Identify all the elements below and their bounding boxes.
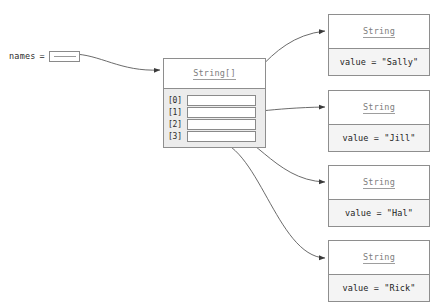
array-slot-list: [0] [1] [2] [3] <box>164 88 265 147</box>
string-object-header: String <box>329 91 429 124</box>
string-object-body: value = "Rick" <box>329 274 429 301</box>
string-object-1: String value = "Jill" <box>328 90 430 152</box>
arrow-slot-3-to-string-3 <box>212 140 325 258</box>
array-slot-index-label: [1] <box>168 108 187 117</box>
string-object-header: String <box>329 15 429 48</box>
string-value-field: value = "Hal" <box>345 208 413 218</box>
variable-name-label: names <box>9 51 36 61</box>
array-slot-index-label: [2] <box>168 120 187 129</box>
array-slot-1: [1] <box>164 106 265 118</box>
string-object-0: String value = "Sally" <box>328 14 430 76</box>
array-slot-2: [2] <box>164 118 265 130</box>
array-slot-index-label: [3] <box>168 132 187 141</box>
array-slot-0: [0] <box>164 94 265 106</box>
string-value-field: value = "Sally" <box>340 57 418 67</box>
array-object: String[] [0] [1] [2] [3] <box>163 58 266 148</box>
variable-reference-box <box>49 51 80 62</box>
array-type-label: String[] <box>193 68 236 80</box>
string-type-label: String <box>363 252 395 264</box>
string-value-field: value = "Jill" <box>342 133 415 143</box>
string-object-3: String value = "Rick" <box>328 240 430 302</box>
string-type-label: String <box>363 177 395 189</box>
array-slot-reference-box <box>187 131 256 142</box>
string-object-2: String value = "Hal" <box>328 165 430 227</box>
variable-names: names = <box>9 48 80 64</box>
array-slot-3: [3] <box>164 130 265 142</box>
diagram-canvas: names = String[] [0] [1] [2] [3] <box>0 0 436 308</box>
assignment-operator: = <box>40 51 45 61</box>
array-slot-reference-box <box>187 107 256 118</box>
array-object-header: String[] <box>164 59 265 88</box>
array-slot-reference-box <box>187 95 256 106</box>
string-object-body: value = "Jill" <box>329 124 429 151</box>
reference-pointer-icon <box>54 56 76 57</box>
array-slot-reference-box <box>187 119 256 130</box>
string-type-label: String <box>363 102 395 114</box>
string-object-body: value = "Hal" <box>329 199 429 226</box>
arrow-names-to-array <box>72 54 160 70</box>
string-object-header: String <box>329 166 429 199</box>
string-object-header: String <box>329 241 429 274</box>
array-slot-index-label: [0] <box>168 96 187 105</box>
string-type-label: String <box>363 26 395 38</box>
string-object-body: value = "Sally" <box>329 48 429 75</box>
string-value-field: value = "Rick" <box>342 283 415 293</box>
